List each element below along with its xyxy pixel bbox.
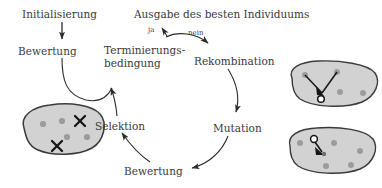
individual-dot [337, 89, 343, 95]
recombination-population-blob [291, 61, 377, 106]
edge-selektion-terminierung [111, 88, 117, 116]
node-label-rekombination: Rekombination [194, 55, 275, 67]
node-label-bewertung-bottom: Bewertung [124, 165, 183, 177]
individual-dot [40, 121, 46, 127]
edge-mutation-bewertung [192, 136, 228, 168]
individual-dot [331, 140, 337, 146]
individual-dot [360, 90, 366, 96]
parent-circle [311, 136, 318, 143]
edge-terminierung-ausgabe-ja [162, 28, 167, 36]
node-label-selektion: Selektion [95, 120, 145, 132]
individual-dot [348, 162, 354, 168]
node-label-ausgabe-bestes-individuum: Ausgabe des besten Individuums [134, 8, 309, 20]
offspring-circle [318, 96, 325, 103]
individual-dot [84, 134, 90, 140]
edge-label-nein: nein [188, 29, 203, 37]
edge-rekombination-mutation [228, 69, 238, 112]
mutation-population-blob [290, 127, 376, 173]
node-label-terminierungsbedingung: Terminierungs- bedingung [104, 44, 170, 70]
terminierungsbedingung-line-1: Terminierungs- [104, 44, 185, 56]
node-label-bewertung-top: Bewertung [18, 45, 77, 57]
edge-bewertung-selektion [122, 133, 150, 162]
terminierungsbedingung-line-2: bedingung [104, 57, 161, 69]
selection-population-blob [23, 104, 104, 154]
individual-dot [323, 163, 329, 169]
mutated-individual-dot [322, 152, 326, 156]
individual-dot [357, 148, 363, 154]
individual-dot [64, 134, 70, 140]
individual-dot [297, 140, 303, 146]
edge-label-ja: ja [148, 26, 154, 34]
diagram-canvas: Initialisierung Bewertung Terminierungs-… [0, 0, 382, 188]
node-label-initialisierung: Initialisierung [22, 8, 97, 20]
node-label-mutation: Mutation [213, 122, 262, 134]
individual-dot [59, 118, 65, 124]
